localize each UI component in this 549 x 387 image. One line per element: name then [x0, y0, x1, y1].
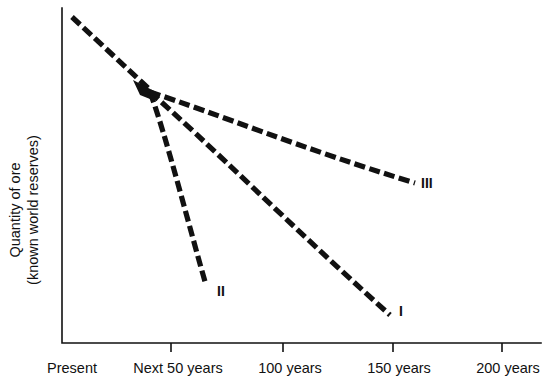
y-axis-title-line2: (known world reserves): [25, 135, 41, 285]
tick-label-50: Next 50 years: [133, 360, 222, 376]
shared-history-line: [72, 17, 148, 88]
tick-label-150: 150 years: [367, 360, 431, 376]
series-label-III: III: [421, 175, 433, 191]
x-axis-tick-labels: Present Next 50 years 100 years 150 year…: [47, 360, 540, 376]
series-label-II: II: [217, 283, 225, 299]
series-label-I: I: [399, 303, 403, 319]
chart-axes: [62, 8, 541, 343]
tick-label-100: 100 years: [258, 360, 322, 376]
series-line-III: [150, 92, 415, 183]
y-axis-title: Quantity of ore (known world reserves): [7, 135, 41, 285]
series-line-II: [150, 92, 206, 285]
tick-label-present: Present: [47, 360, 97, 376]
x-axis-ticks: [171, 343, 502, 352]
tick-label-200: 200 years: [476, 360, 540, 376]
ore-reserves-projection-chart: Quantity of ore (known world reserves) P…: [0, 0, 549, 387]
y-axis-title-line1: Quantity of ore: [7, 162, 23, 257]
